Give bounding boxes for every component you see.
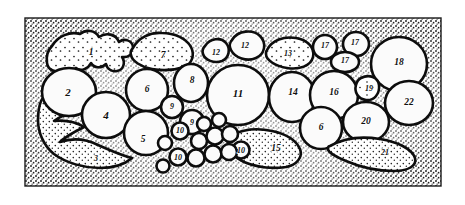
figure-container: 1 2 3 4 5 6 7 8 9 9 10 10 10 11 12 12 13… — [0, 0, 465, 205]
label-9a: 9 — [170, 102, 174, 111]
label-19: 19 — [365, 84, 373, 93]
label-22: 22 — [403, 97, 414, 107]
label-10c: 10 — [237, 146, 245, 155]
cross-section-illustration: 1 2 3 4 5 6 7 8 9 9 10 10 10 11 12 12 13… — [0, 0, 465, 205]
label-9b: 9 — [190, 118, 194, 127]
label-21: 21 — [380, 148, 389, 157]
label-14: 14 — [288, 87, 298, 97]
label-20: 20 — [360, 116, 371, 126]
follicle-small-3 — [222, 126, 238, 142]
label-3: 3 — [93, 154, 98, 163]
label-6a: 6 — [145, 84, 150, 94]
label-12a: 12 — [212, 48, 220, 57]
follicle-small-8 — [212, 113, 226, 127]
label-17b: 17 — [351, 38, 360, 47]
label-8: 8 — [190, 75, 195, 85]
label-10a: 10 — [176, 126, 184, 135]
label-5: 5 — [141, 134, 146, 144]
label-18: 18 — [394, 57, 404, 67]
label-15: 15 — [271, 143, 281, 153]
label-2: 2 — [64, 86, 71, 98]
label-4: 4 — [102, 109, 109, 121]
follicle-small-7 — [197, 117, 211, 131]
follicle-small-10 — [157, 160, 170, 173]
label-11: 11 — [233, 87, 243, 99]
follicle-small-6 — [221, 144, 237, 160]
follicle-small-5 — [205, 146, 222, 163]
label-16: 16 — [329, 87, 339, 97]
label-12b: 12 — [241, 41, 249, 50]
label-1: 1 — [89, 47, 94, 57]
label-17c: 17 — [341, 56, 350, 65]
label-10b: 10 — [174, 153, 182, 162]
illustration-body: 1 2 3 4 5 6 7 8 9 9 10 10 10 11 12 12 13… — [25, 18, 441, 186]
label-17a: 17 — [321, 41, 330, 50]
follicle-small-9 — [158, 136, 172, 150]
label-13: 13 — [284, 49, 292, 58]
follicle-small-1 — [191, 133, 207, 149]
follicle-small-4 — [188, 150, 205, 167]
label-6b: 6 — [319, 122, 324, 132]
